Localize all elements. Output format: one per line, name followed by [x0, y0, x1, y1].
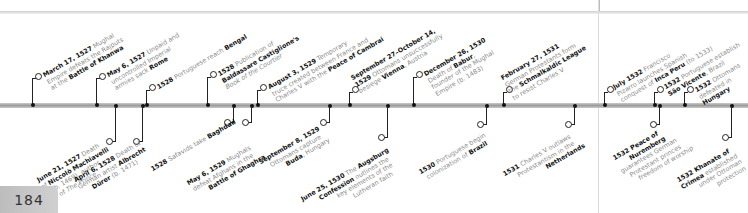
timeline-stem [329, 106, 330, 122]
event-marker [378, 134, 385, 141]
top-rule [0, 11, 748, 14]
timeline-dot [145, 103, 149, 107]
event-highlight: Bengal [223, 33, 249, 52]
timeline-stem [207, 77, 208, 105]
event-label: 1530 Portuguese begin colonization of Br… [418, 132, 491, 183]
event-marker [99, 73, 106, 80]
timeline-stem [413, 77, 414, 105]
event-marker [650, 121, 657, 128]
timeline-dot [31, 103, 35, 107]
timeline-stem [574, 106, 575, 124]
timeline-stem [731, 106, 732, 137]
event-marker [260, 84, 267, 91]
timeline-dot [502, 103, 506, 107]
timeline-stem [387, 106, 388, 137]
page-number-text: 184 [14, 192, 44, 208]
event-marker [565, 121, 572, 128]
timeline-dot [206, 103, 210, 107]
timeline-stem [251, 106, 252, 122]
event-label: February 27, 1531 German Protestants for… [500, 32, 592, 102]
timeline-dot [683, 103, 687, 107]
timeline-dot [412, 103, 416, 107]
timeline-stem [659, 106, 660, 124]
event-marker [657, 86, 664, 93]
event-marker [416, 71, 423, 78]
event-label: June 25, 1530 The Augsburg Confession ou… [300, 147, 402, 213]
event-marker [106, 138, 113, 145]
timeline-dot [95, 103, 99, 107]
event-marker [477, 121, 484, 128]
event-marker [722, 134, 729, 141]
timeline-dot [256, 103, 260, 107]
event-label: 1531 Charles V outlaws Protestantism in … [502, 130, 587, 192]
event-text: Safavids take [165, 134, 210, 164]
timeline-dot [653, 103, 657, 107]
timeline-stem [96, 78, 97, 105]
event-marker [149, 84, 156, 91]
timeline-stem [486, 106, 487, 124]
timeline-stem [32, 78, 33, 105]
page-number: 184 [0, 186, 58, 213]
timeline-bar [0, 103, 748, 108]
timeline-stem [115, 106, 116, 141]
event-label: September 8, 1529 Ottomans capture Buda,… [258, 124, 332, 180]
event-marker [242, 119, 249, 126]
event-marker [210, 71, 217, 78]
event-highlight: Baghdad [206, 118, 238, 141]
timeline-stem [142, 106, 143, 141]
timeline-dot [603, 103, 607, 107]
timeline-dot [348, 103, 352, 107]
event-marker [35, 73, 42, 80]
event-label: May 6, 1529 Mughals defeat Afghans in th… [186, 141, 267, 201]
